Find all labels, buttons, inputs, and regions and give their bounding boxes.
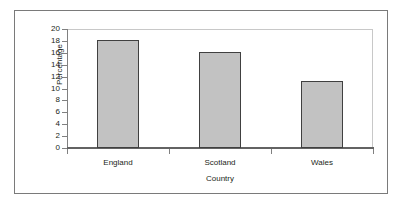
bar-chart-figure: 20181614121086420 EnglandScotlandWales P… bbox=[0, 0, 402, 205]
x-axis-category-label: Wales bbox=[271, 158, 373, 167]
x-axis-category-label: Scotland bbox=[169, 158, 271, 167]
y-axis-tick bbox=[62, 136, 67, 137]
y-axis-tick-label: 0 bbox=[44, 144, 60, 152]
x-axis-tick bbox=[67, 149, 68, 154]
x-axis-tick bbox=[169, 149, 170, 154]
y-axis-tick-label: 4 bbox=[44, 120, 60, 128]
y-axis-tick bbox=[62, 112, 67, 113]
bar bbox=[97, 40, 139, 148]
y-axis-tick-label: 2 bbox=[44, 132, 60, 140]
bar bbox=[199, 52, 241, 148]
x-axis-tick bbox=[373, 149, 374, 154]
y-axis-tick-label: 6 bbox=[44, 108, 60, 116]
x-axis-category-label: England bbox=[67, 158, 169, 167]
y-axis-title: Percentage bbox=[55, 32, 64, 98]
x-axis-title: Country bbox=[67, 174, 373, 183]
bar bbox=[301, 81, 343, 148]
y-axis-tick bbox=[62, 100, 67, 101]
y-axis-tick bbox=[62, 29, 67, 30]
x-axis-tick bbox=[271, 149, 272, 154]
y-axis-tick bbox=[62, 124, 67, 125]
y-axis-line bbox=[67, 29, 68, 149]
